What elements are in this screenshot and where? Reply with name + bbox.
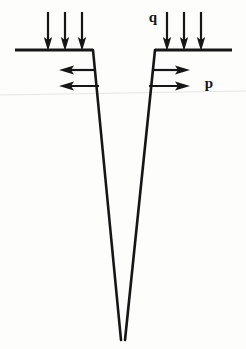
downward-load-arrows-left (44, 12, 86, 51)
rightward-pressure-arrows (149, 66, 190, 91)
left-arrow (59, 82, 99, 91)
wedge-wall-right (125, 50, 155, 340)
down-arrow (61, 12, 69, 51)
engineering-diagram: q p (0, 0, 246, 349)
down-arrow (197, 12, 205, 51)
right-arrow (149, 82, 190, 91)
down-arrow (44, 12, 52, 51)
scan-artifact-line (0, 91, 246, 95)
leftward-pressure-arrows (59, 66, 99, 91)
down-arrow (180, 12, 188, 51)
down-arrow (163, 12, 171, 51)
surcharge-load-label: q (149, 9, 158, 25)
figure-svg: q p (0, 0, 246, 349)
downward-load-arrows-right (163, 12, 205, 51)
right-arrow (152, 66, 190, 75)
left-arrow (59, 66, 96, 75)
lateral-pressure-label: p (205, 75, 213, 91)
down-arrow (78, 12, 86, 51)
